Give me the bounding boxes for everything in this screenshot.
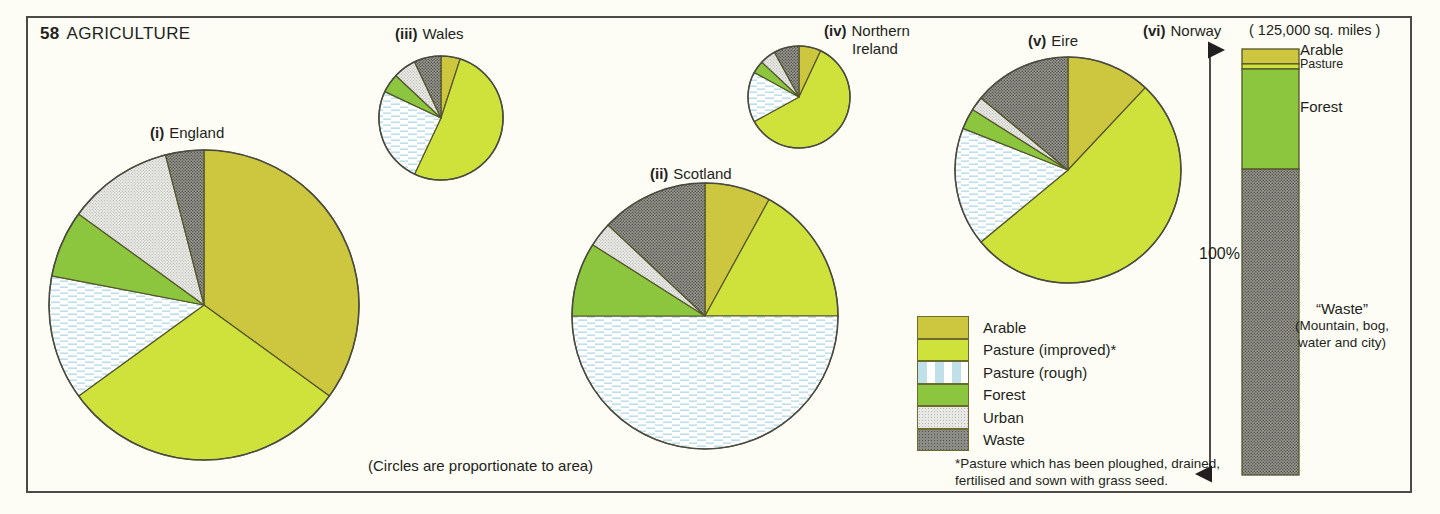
legend-item-pasture-rough[interactable]: Pasture (rough): [917, 361, 1116, 384]
bar-segment-pasture[interactable]: [1242, 64, 1299, 69]
legend-swatch-arable: [917, 316, 969, 339]
page-title: 58AGRICULTURE: [40, 24, 190, 44]
bar-label-waste-sub1: (Mountain, bog,: [1272, 317, 1412, 334]
bar-segment-arable[interactable]: [1242, 49, 1299, 64]
pie-title-wales: (iii)Wales: [395, 25, 464, 43]
footnote-line-2: fertilised and sown with grass seed.: [955, 472, 1220, 489]
legend-swatch-pasture-rough: [917, 361, 969, 384]
legend-swatch-waste: [917, 429, 969, 452]
bar-segment-forest[interactable]: [1242, 69, 1299, 169]
norway-area-note: ( 125,000 sq. miles ): [1249, 22, 1380, 38]
legend-label-pasture-rough: Pasture (rough): [983, 364, 1087, 381]
legend-label-arable: Arable: [983, 319, 1026, 336]
bar-label-forest: Forest: [1300, 98, 1343, 115]
pie-title-scotland: (ii)Scotland: [650, 165, 732, 183]
bar-label-waste-sub2: water and city): [1272, 334, 1412, 351]
legend-item-waste[interactable]: Waste: [917, 429, 1116, 452]
footnote-line-1: *Pasture which has been ploughed, draine…: [955, 455, 1220, 472]
legend-swatch-forest: [917, 384, 969, 407]
legend-item-arable[interactable]: Arable: [917, 316, 1116, 339]
legend-swatch-urban: [917, 406, 969, 429]
legend-label-urban: Urban: [983, 409, 1024, 426]
legend: Arable Pasture (improved)* Pasture (roug…: [917, 316, 1116, 451]
legend-swatch-pasture-improved: [917, 339, 969, 362]
pie-title-england: (i)England: [150, 124, 224, 142]
legend-label-forest: Forest: [983, 386, 1026, 403]
circles-proportionate-note: (Circles are proportionate to area): [368, 457, 593, 474]
pie-title-northern-ireland: (iv)Northern Ireland: [824, 22, 910, 58]
legend-item-forest[interactable]: Forest: [917, 384, 1116, 407]
legend-label-pasture-improved: Pasture (improved)*: [983, 341, 1116, 358]
pie-title-ni-line1: Northern: [852, 22, 910, 39]
scale-percent-label: 100%: [1199, 245, 1240, 263]
legend-label-waste: Waste: [983, 431, 1025, 448]
legend-item-pasture-improved[interactable]: Pasture (improved)*: [917, 339, 1116, 362]
bar-title-norway: (vi)Norway: [1143, 22, 1221, 40]
bar-label-arable: Arable: [1300, 41, 1343, 58]
bar-label-waste-main: “Waste”: [1272, 300, 1412, 317]
pie-title-ni-line2: Ireland: [852, 40, 910, 58]
footnote: *Pasture which has been ploughed, draine…: [955, 455, 1220, 489]
pie-title-eire: (v)Eire: [1028, 32, 1078, 50]
bar-label-pasture: Pasture: [1300, 57, 1343, 71]
page-number: 58: [40, 24, 60, 43]
bar-label-waste: “Waste” (Mountain, bog, water and city): [1272, 300, 1412, 351]
page-title-text: AGRICULTURE: [67, 24, 191, 43]
legend-item-urban[interactable]: Urban: [917, 406, 1116, 429]
